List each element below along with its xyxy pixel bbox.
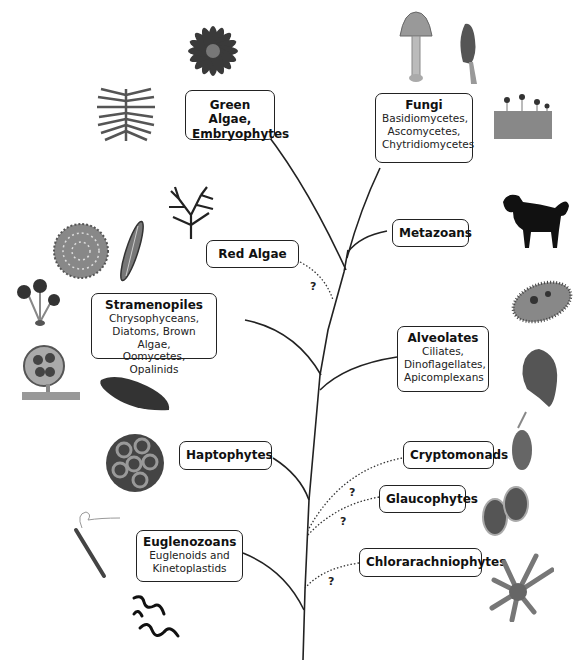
oomycete-icon [20,340,82,402]
group-glaucophytes: Glaucophytes [379,485,466,513]
red-seaweed-icon [165,185,217,241]
euglena-icon [70,508,122,580]
glaucophyte-icon [480,482,532,538]
group-fungi: Fungi Basidiomycetes, Ascomycetes, Chytr… [375,93,473,163]
group-members: Kinetoplastids [143,562,236,575]
group-title: Stramenopiles [98,298,210,312]
group-red-algae: Red Algae [206,240,299,268]
phylogenetic-tree-diagram: Green Algae, Embryophytes Fungi Basidiom… [0,0,583,668]
group-members: Euglenoids and [143,549,236,562]
dog-icon [497,190,573,252]
group-green-algae: Green Algae, Embryophytes [185,90,275,140]
group-title: Euglenozoans [143,535,236,549]
opalinid-icon [97,372,173,414]
uncertain-marker-cryptomonads: ? [349,486,355,499]
centric-diatom-icon [52,222,110,280]
group-members: Apicomplexans [404,371,482,384]
group-stramenopiles: Stramenopiles Chrysophyceans, Diatoms, B… [91,293,217,359]
group-members: Ciliates, [404,345,482,358]
group-title: Metazoans [399,226,462,240]
chlorarachniophyte-icon [484,552,554,622]
group-title: Haptophytes [186,448,265,462]
group-title: Fungi [382,98,466,112]
uncertain-marker-glaucophytes: ? [340,515,346,528]
uncertain-marker-red-algae: ? [310,280,316,293]
slime-mold-icon [492,93,554,141]
dinoflagellate-icon [519,345,561,411]
trypanosome-icon [130,594,182,644]
branch-haptophytes [273,458,309,500]
group-members: Chrysophyceans, [98,312,210,325]
coccolithophore-icon [104,432,166,494]
group-metazoans: Metazoans [392,219,469,247]
group-title: Embryophytes [192,127,268,141]
morel-icon [455,20,481,86]
group-title: Cryptomonads [410,448,487,462]
group-members: Chytridiomycetes [382,138,466,151]
group-members: Dinoflagellates, [404,358,482,371]
group-members: Ascomycetes, [382,125,466,138]
group-title: Chlorarachniophytes [366,555,475,569]
cryptomonad-icon [508,408,538,472]
group-title: Green Algae, [192,98,268,127]
group-title: Red Algae [213,247,292,261]
group-cryptomonads: Cryptomonads [403,441,494,469]
trunk-line [303,250,348,660]
desmid-icon [95,85,157,145]
mushroom-icon [396,10,436,84]
group-chlorarachniophytes: Chlorarachniophytes [359,548,482,577]
group-title: Alveolates [404,331,482,345]
branch-red-algae-uncertain [300,262,333,300]
branch-stramenopiles [245,320,321,375]
group-alveolates: Alveolates Ciliates, Dinoflagellates, Ap… [397,326,489,392]
group-title: Glaucophytes [386,492,459,506]
branch-fungi [347,168,380,258]
chrysophyte-icon [8,278,64,328]
branch-alveolates [320,357,397,390]
pennate-diatom-icon [118,218,146,284]
group-members: Basidiomycetes, [382,112,466,125]
flower-icon [180,18,246,84]
group-members: Diatoms, Brown Algae, [98,325,210,350]
branch-euglenozoans [243,553,304,610]
ciliate-icon [502,272,578,330]
uncertain-marker-chlorarachniophytes: ? [328,575,334,588]
group-euglenozoans: Euglenozoans Euglenoids and Kinetoplasti… [136,530,243,582]
group-haptophytes: Haptophytes [179,441,272,470]
